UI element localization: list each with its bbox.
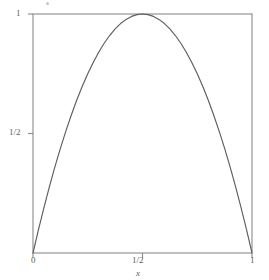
parabola-curve xyxy=(33,14,252,253)
x-axis-tick-label-half: 1/2 xyxy=(132,256,144,265)
plot-canvas xyxy=(0,0,269,280)
x-axis-tick-label-1: 1 xyxy=(250,256,255,265)
parabola-figure: 1 1/2 0 1/2 1 x xyxy=(0,0,269,280)
x-axis-tick-label-0: 0 xyxy=(31,256,36,265)
y-axis-tick-label-1: 1 xyxy=(16,9,21,18)
y-axis-ticks xyxy=(28,14,33,134)
y-axis-tick-label-half: 1/2 xyxy=(9,128,21,137)
x-axis-title: x xyxy=(136,269,140,278)
plot-frame xyxy=(33,14,252,253)
